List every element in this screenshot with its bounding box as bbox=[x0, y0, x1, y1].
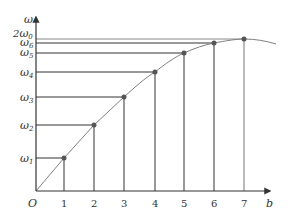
y-level-labels: ω1 ω2 ω3 ω4 ω5 ω6 2ω0 bbox=[12, 27, 34, 166]
y-label-w2: ω2 bbox=[20, 119, 34, 133]
x-tick-7: 7 bbox=[241, 198, 247, 209]
horizontal-guides bbox=[36, 39, 244, 158]
point-1 bbox=[62, 156, 67, 161]
x-tick-1: 1 bbox=[61, 198, 67, 209]
point-7 bbox=[242, 37, 247, 42]
y-axis-label: ω bbox=[24, 13, 33, 26]
y-label-w4: ω4 bbox=[20, 66, 33, 80]
point-5 bbox=[182, 51, 187, 56]
point-4 bbox=[153, 70, 158, 75]
x-tick-2: 2 bbox=[91, 198, 97, 209]
x-tick-6: 6 bbox=[211, 198, 217, 209]
point-3 bbox=[122, 95, 127, 100]
x-tick-3: 3 bbox=[121, 198, 127, 209]
x-tick-4: 4 bbox=[152, 198, 158, 209]
y-label-w1: ω1 bbox=[20, 152, 33, 166]
point-6 bbox=[212, 41, 217, 46]
point-2 bbox=[92, 123, 97, 128]
origin-label: O bbox=[28, 197, 37, 210]
x-tick-labels: 1 2 3 4 5 6 7 bbox=[61, 198, 247, 209]
diagram-canvas: ω b O 1 2 3 4 5 6 7 ω1 ω2 ω3 ω4 ω5 ω6 2ω… bbox=[0, 0, 292, 217]
y-label-2w0: 2ω0 bbox=[12, 27, 33, 41]
curve bbox=[36, 39, 276, 191]
x-tick-5: 5 bbox=[181, 198, 187, 209]
y-label-w3: ω3 bbox=[20, 91, 34, 105]
vertical-guides bbox=[64, 39, 244, 191]
x-axis-label-b: b bbox=[266, 197, 273, 210]
data-points bbox=[62, 37, 247, 161]
